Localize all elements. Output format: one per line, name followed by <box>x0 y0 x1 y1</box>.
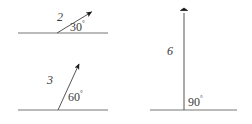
angle-value-a: 30 <box>70 20 82 34</box>
degree-symbol-a: ° <box>82 19 85 27</box>
degree-symbol-b: ° <box>80 89 83 97</box>
magnitude-label-c: 6 <box>167 45 173 57</box>
panel-30-degrees <box>18 12 108 33</box>
angle-label-a: 30° <box>70 21 85 33</box>
arrowhead-c-icon <box>181 8 188 11</box>
angle-value-c: 90 <box>188 95 200 109</box>
magnitude-label-a: 2 <box>57 11 63 23</box>
vector-diagram-figure: 2 30° 3 60° 6 90° <box>0 0 252 124</box>
diagram-canvas <box>0 0 252 124</box>
degree-symbol-c: ° <box>200 94 203 102</box>
angle-value-b: 60 <box>68 90 80 104</box>
angle-label-b: 60° <box>68 91 83 103</box>
magnitude-label-b: 3 <box>47 74 53 86</box>
panel-60-degrees <box>18 64 108 110</box>
angle-label-c: 90° <box>188 96 203 108</box>
